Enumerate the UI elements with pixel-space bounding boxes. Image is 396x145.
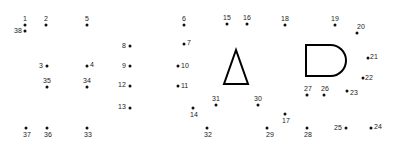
dot-label: 32: [204, 131, 212, 138]
dot-28: [306, 127, 309, 130]
dot-label: 36: [44, 131, 52, 138]
d-shape: [306, 45, 346, 76]
dot-4: [86, 65, 89, 68]
dot-11: [177, 85, 180, 88]
dot-label: 7: [187, 39, 191, 46]
dot-38: [24, 30, 27, 33]
dot-label: 1: [23, 15, 27, 22]
dot-label: 18: [281, 15, 289, 22]
dot-label: 16: [243, 14, 251, 21]
dot-1: [24, 24, 27, 27]
dot-label: 26: [321, 85, 329, 92]
dot-label: 9: [122, 62, 126, 69]
dot-36: [46, 127, 49, 130]
dot-label: 10: [181, 62, 189, 69]
dot-label: 21: [370, 53, 378, 60]
dot-label: 22: [365, 74, 373, 81]
dot-8: [129, 45, 132, 48]
dot-6: [183, 24, 186, 27]
dot-34: [86, 86, 89, 89]
dot-13: [129, 107, 132, 110]
dot-label: 15: [223, 14, 231, 21]
dot-label: 23: [350, 89, 358, 96]
dot-label: 30: [254, 95, 262, 102]
dot-29: [266, 127, 269, 130]
dot-37: [25, 127, 28, 130]
dot-3: [46, 65, 49, 68]
dot-label: 33: [84, 131, 92, 138]
dot-label: 2: [44, 15, 48, 22]
dot-label: 17: [282, 117, 290, 124]
dot-label: 24: [374, 123, 382, 130]
dot-label: 29: [266, 131, 274, 138]
dot-label: 6: [182, 15, 186, 22]
dot-label: 14: [190, 111, 198, 118]
dot-9: [129, 65, 132, 68]
dot-26: [323, 94, 326, 97]
dot-16: [246, 23, 249, 26]
dot-14: [192, 107, 195, 110]
dot-30: [257, 104, 260, 107]
dot-32: [206, 127, 209, 130]
dot-31: [215, 104, 218, 107]
dot-label: 5: [85, 15, 89, 22]
dot-18: [284, 24, 287, 27]
dot-24: [370, 127, 373, 130]
dot-label: 8: [122, 42, 126, 49]
dot-label: 35: [43, 77, 51, 84]
dot-17: [284, 113, 287, 116]
dot-23: [346, 90, 349, 93]
dot-label: 19: [331, 15, 339, 22]
dot-label: 3: [39, 62, 43, 69]
dot-label: 12: [118, 81, 126, 88]
dot-5: [86, 24, 89, 27]
dot-25: [345, 127, 348, 130]
triangle-shape: [224, 50, 248, 84]
dot-7: [183, 43, 186, 46]
dot-label: 4: [90, 61, 94, 68]
dot-label: 25: [334, 124, 342, 131]
dot-33: [86, 127, 89, 130]
dot-label: 13: [118, 103, 126, 110]
dot-27: [306, 94, 309, 97]
dot-label: 34: [83, 77, 91, 84]
dot-label: 37: [23, 131, 31, 138]
dot-20: [356, 32, 359, 35]
dot-19: [334, 24, 337, 27]
connect-the-dots-canvas: 1234567891011121314151617181920212223242…: [0, 0, 396, 145]
dot-10: [177, 65, 180, 68]
dot-label: 11: [181, 82, 188, 89]
dot-label: 28: [304, 131, 312, 138]
dot-2: [45, 24, 48, 27]
dot-label: 27: [304, 85, 312, 92]
dot-12: [129, 85, 132, 88]
dot-label: 38: [14, 27, 22, 34]
dot-label: 31: [212, 95, 220, 102]
dot-35: [46, 86, 49, 89]
dot-15: [226, 23, 229, 26]
dot-label: 20: [357, 23, 365, 30]
